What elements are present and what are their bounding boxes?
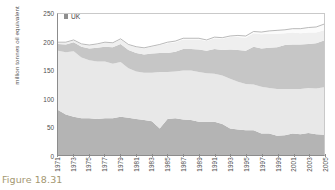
x-tick-label: 1987: [180, 157, 187, 172]
x-tick-label: 1993: [227, 157, 234, 172]
x-tick-label: 2003: [306, 157, 313, 172]
x-tick-label: 2005: [322, 157, 329, 172]
y-axis-title: million tonnes oil equivalent: [13, 0, 20, 106]
chart-legend: UK: [64, 13, 80, 20]
x-tick-label: 1973: [70, 157, 77, 172]
x-tick-label: 1989: [196, 157, 203, 172]
y-tick-label: 250: [43, 10, 54, 17]
y-axis-ticks: 050100150200250: [30, 0, 54, 190]
y-tick-label: 100: [43, 95, 54, 102]
x-tick-label: 1991: [211, 157, 218, 172]
uk-series-marker: [64, 14, 68, 19]
stacked-area-svg: [58, 14, 324, 155]
x-tick-label: 1997: [259, 157, 266, 172]
figure-caption: Figure 18.31: [2, 174, 62, 185]
y-tick-label: 150: [43, 67, 54, 74]
chart-plot-area: [57, 13, 325, 156]
x-tick-label: 1985: [164, 157, 171, 172]
x-tick-label: 1981: [133, 157, 140, 172]
x-tick-label: 1983: [148, 157, 155, 172]
x-tick-label: 1999: [275, 157, 282, 172]
y-tick-label: 200: [43, 38, 54, 45]
x-tick-label: 1971: [54, 157, 61, 172]
legend-label-uk: UK: [71, 13, 80, 20]
x-tick-label: 1975: [85, 157, 92, 172]
figure-container: million tonnes oil equivalent 0501001502…: [0, 0, 335, 190]
x-tick-label: 2001: [290, 157, 297, 172]
x-tick-label: 1979: [117, 157, 124, 172]
x-axis-ticks: 1971197319751977197919811983198519871989…: [57, 157, 325, 187]
x-tick-label: 1995: [243, 157, 250, 172]
y-tick-label: 50: [47, 124, 54, 131]
x-tick-label: 1977: [101, 157, 108, 172]
